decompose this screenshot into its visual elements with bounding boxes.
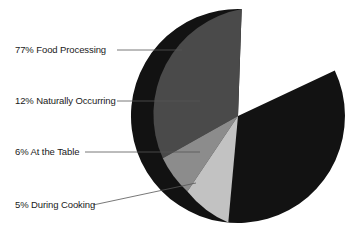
- pie-label-food-processing: 77% Food Processing: [15, 44, 106, 55]
- pie-label-naturally-occurring: 12% Naturally Occurring: [15, 95, 116, 106]
- pie-label-during-cooking: 5% During Cooking: [15, 199, 95, 210]
- pie-chart: 77% Food Processing 12% Naturally Occurr…: [0, 0, 360, 233]
- pie-label-at-the-table: 6% At the Table: [15, 146, 79, 157]
